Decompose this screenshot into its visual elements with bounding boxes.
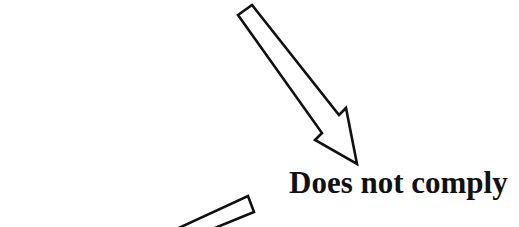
down-left-arrow-icon bbox=[170, 196, 254, 227]
down-right-arrow-icon bbox=[238, 5, 357, 164]
diagram-canvas: Does not comply bbox=[0, 0, 519, 227]
compliance-label: Does not comply bbox=[289, 166, 508, 200]
